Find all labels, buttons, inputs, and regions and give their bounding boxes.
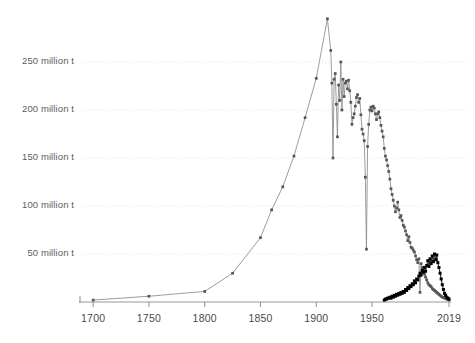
data-point (335, 103, 338, 106)
data-point (396, 201, 399, 204)
data-point (373, 107, 376, 110)
x-axis-tick-label-1700: 1700 (63, 312, 123, 324)
data-point (413, 251, 416, 254)
data-point (414, 281, 417, 284)
data-point (342, 78, 345, 81)
data-point (386, 164, 389, 167)
data-point (362, 133, 365, 136)
data-point (353, 112, 356, 115)
x-axis-tick-marks (93, 302, 449, 307)
data-point (397, 208, 400, 211)
chart-container: 50 million t100 million t150 million t20… (0, 0, 475, 343)
data-point (349, 101, 352, 104)
data-series-group (92, 17, 451, 301)
data-point (203, 290, 206, 293)
data-point (418, 257, 421, 260)
data-point (407, 235, 410, 238)
data-point (348, 89, 351, 92)
data-point (424, 270, 427, 273)
data-point (391, 193, 394, 196)
data-point (341, 109, 344, 112)
data-point (429, 257, 432, 260)
data-point (364, 176, 367, 179)
data-point (338, 99, 341, 102)
data-point (394, 210, 397, 213)
data-point (333, 78, 336, 81)
data-point (332, 157, 335, 160)
data-point (329, 49, 332, 52)
data-point (360, 113, 363, 116)
data-point (358, 97, 361, 100)
series-primary-series (92, 17, 451, 301)
data-point (392, 199, 395, 202)
data-point (384, 155, 387, 158)
data-point (357, 101, 360, 104)
data-point (315, 77, 318, 80)
data-point (366, 145, 369, 148)
data-point (367, 123, 370, 126)
y-axis-tick-label-150: 150 million t (0, 151, 74, 162)
data-point (441, 283, 444, 286)
data-point (409, 241, 412, 244)
data-point (420, 274, 423, 277)
data-point (387, 170, 390, 173)
line-chart-plot (0, 0, 475, 343)
data-point (416, 261, 419, 264)
data-point (424, 276, 427, 279)
data-point (419, 291, 422, 294)
x-axis-tick-label-2019: 2019 (419, 312, 475, 324)
y-axis-tick-label-250: 250 million t (0, 55, 74, 66)
data-point (231, 272, 234, 275)
gridlines (82, 62, 469, 254)
data-point (420, 262, 423, 265)
data-point (440, 277, 443, 280)
data-point (442, 288, 445, 291)
data-point (337, 84, 340, 87)
data-point (377, 111, 380, 114)
data-point (381, 130, 384, 133)
y-axis-tick-label-50: 50 million t (0, 247, 74, 258)
data-point (400, 214, 403, 217)
data-point (435, 253, 438, 256)
data-point (439, 272, 442, 275)
x-axis-tick-label-1950: 1950 (342, 312, 402, 324)
y-axis-tick-label-100: 100 million t (0, 199, 74, 210)
data-point (427, 265, 430, 268)
data-point (352, 116, 355, 119)
data-point (416, 278, 419, 281)
data-point (304, 116, 307, 119)
data-point (356, 93, 359, 96)
data-point (363, 139, 366, 142)
data-point (404, 230, 407, 233)
data-point (389, 178, 392, 181)
data-point (339, 61, 342, 64)
x-axis-tick-label-1900: 1900 (286, 312, 346, 324)
data-point (365, 248, 368, 251)
data-point (434, 258, 437, 261)
data-point (378, 116, 381, 119)
data-point (380, 124, 383, 127)
data-point (401, 219, 404, 222)
data-point (293, 155, 296, 158)
data-point (390, 187, 393, 190)
data-point (382, 136, 385, 139)
data-point (270, 208, 273, 211)
data-point (375, 118, 378, 121)
x-axis-tick-label-1750: 1750 (119, 312, 179, 324)
data-point (403, 226, 406, 229)
data-point (361, 128, 364, 131)
data-point (385, 159, 388, 162)
data-point (148, 295, 151, 298)
x-axis-tick-label-1850: 1850 (230, 312, 290, 324)
data-point (331, 82, 334, 85)
data-point (351, 123, 354, 126)
data-point (355, 96, 358, 99)
data-point (259, 236, 262, 239)
data-point (354, 105, 357, 108)
data-point (383, 147, 386, 150)
data-point (334, 72, 337, 75)
data-point (347, 79, 350, 82)
y-axis-tick-label-200: 200 million t (0, 103, 74, 114)
data-point (336, 136, 339, 139)
data-point (414, 255, 417, 258)
